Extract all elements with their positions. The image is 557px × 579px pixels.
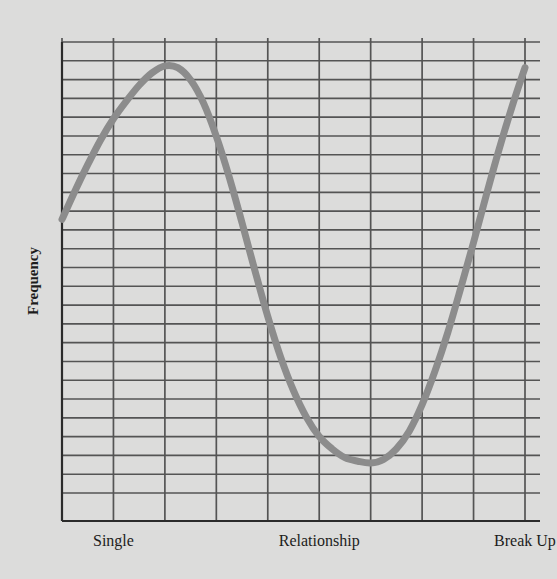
frequency-line-chart: SingleRelationshipBreak Up Frequency: [0, 0, 557, 579]
x-tick-label: Break Up: [494, 532, 556, 550]
chart-container: SingleRelationshipBreak Up Frequency: [0, 0, 557, 579]
x-tick-label: Single: [93, 532, 134, 550]
y-axis-label: Frequency: [25, 246, 41, 315]
x-tick-label: Relationship: [279, 532, 360, 550]
